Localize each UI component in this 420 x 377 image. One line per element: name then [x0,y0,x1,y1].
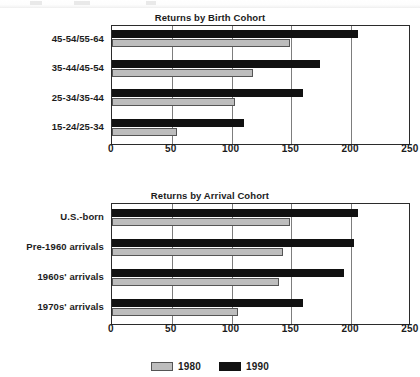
x-axis-tick-label: 150 [282,323,299,334]
category-axis-labels: U.S.-bornPre-1960 arrivals1960s' arrival… [0,203,104,325]
bar-1990-1960s-arrivals [112,269,344,277]
value-axis: 050100150200250 [111,322,410,340]
category-label: 1970s' arrivals [37,301,104,312]
chart-title: Returns by Birth Cohort [0,8,420,25]
category-label: 25-34/35-44 [52,91,104,102]
scan-artifact-strip [0,0,420,8]
legend-label: 1990 [246,361,269,372]
plot-wrap: U.S.-bornPre-1960 arrivals1960s' arrival… [0,203,420,325]
x-axis-tick-label: 150 [282,143,299,154]
category-label: 45-54/55-64 [52,32,104,43]
bar-1980-1970s-arrivals [112,308,238,316]
x-axis-tick-label: 200 [342,143,359,154]
legend-swatch-1990 [219,362,241,371]
bar-1990-25-34-35-44 [112,89,303,97]
bar-1980-15-24-25-34 [112,128,177,136]
chart-returns-by-birth-cohort: Returns by Birth Cohort 45-54/55-6435-44… [0,8,420,186]
bar-1990-35-44-45-54 [112,60,320,68]
category-axis-labels: 45-54/55-6435-44/45-5425-34/35-4415-24/2… [0,25,104,145]
bar-1980-u-s-born [112,218,290,226]
plot-area [111,203,410,325]
x-axis-tick-label: 250 [401,143,418,154]
bar-1980-25-34-35-44 [112,98,235,106]
x-axis-tick-label: 200 [342,323,359,334]
bar-1990-u-s-born [112,209,358,217]
bar-1980-pre-1960-arrivals [112,248,283,256]
category-label: 1960s' arrivals [37,271,104,282]
x-axis-tick-label: 0 [108,323,114,334]
value-axis: 050100150200250 [111,142,410,160]
gridline [291,26,292,144]
x-axis-tick-label: 0 [108,143,114,154]
category-label: 15-24/25-34 [52,121,104,132]
legend-item-1990: 1990 [219,361,269,372]
chart-legend: 19801990 [0,356,420,377]
x-axis-tick-label: 250 [401,323,418,334]
legend-label: 1980 [178,361,201,372]
bar-1990-45-54-55-64 [112,30,358,38]
bar-1990-15-24-25-34 [112,119,244,127]
legend-swatch-1980 [151,362,173,371]
x-axis-tick-label: 50 [165,323,177,334]
gridline [351,204,352,324]
category-label: 35-44/45-54 [52,62,104,73]
chart-title: Returns by Arrival Cohort [0,186,420,203]
chart-returns-by-arrival-cohort: Returns by Arrival Cohort U.S.-bornPre-1… [0,186,420,358]
bar-1990-1970s-arrivals [112,299,303,307]
bar-1980-1960s-arrivals [112,278,279,286]
x-axis-tick-label: 100 [222,143,239,154]
category-label: U.S.-born [60,211,104,222]
plot-area [111,25,410,145]
gridline [351,26,352,144]
bar-1980-45-54-55-64 [112,39,290,47]
bar-1980-35-44-45-54 [112,69,253,77]
plot-wrap: 45-54/55-6435-44/45-5425-34/35-4415-24/2… [0,25,420,145]
x-axis-tick-label: 50 [165,143,177,154]
bar-1990-pre-1960-arrivals [112,239,354,247]
x-axis-tick-label: 100 [222,323,239,334]
category-label: Pre-1960 arrivals [26,241,104,252]
legend-item-1980: 1980 [151,361,201,372]
